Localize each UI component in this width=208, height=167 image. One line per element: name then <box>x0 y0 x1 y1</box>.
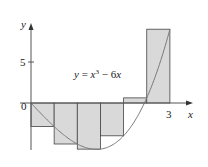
y-axis-label: y <box>20 18 26 30</box>
x-tick-label-0: 0 <box>21 100 27 112</box>
function-label: y = x3 − 6x <box>73 68 121 80</box>
y-axis-arrow-icon <box>29 23 34 30</box>
x-axis-arrow-icon <box>186 101 193 106</box>
riemann-rectangle <box>124 98 147 103</box>
riemann-rectangle <box>100 103 123 136</box>
x-tick-label-3: 3 <box>166 108 172 120</box>
y-tick-label-5: 5 <box>20 56 26 68</box>
x-axis-label: x <box>187 108 193 120</box>
riemann-rectangle <box>54 103 77 144</box>
riemann-rectangle <box>77 103 100 149</box>
riemann-sum-chart: 5 0 3 x y y = x3 − 6x <box>0 0 208 167</box>
riemann-rectangles <box>31 29 170 149</box>
